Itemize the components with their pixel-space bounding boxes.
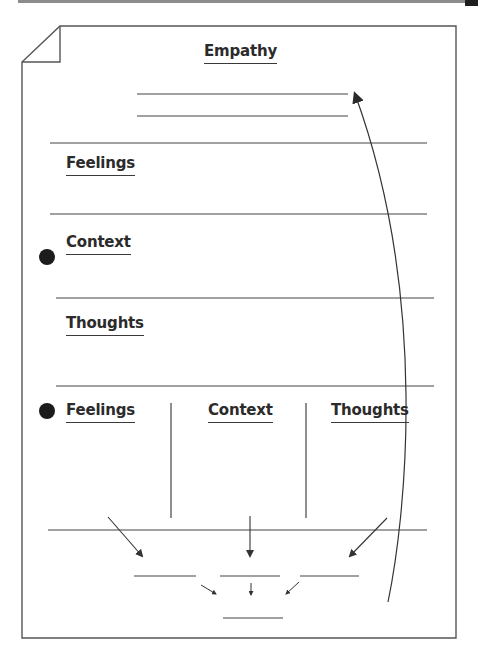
section-context-label: Context: [66, 233, 131, 255]
column-thoughts-label: Thoughts: [331, 401, 409, 423]
title-answer-lines: [137, 94, 348, 116]
bullet-icon: [39, 403, 55, 419]
section-feelings-label: Feelings: [66, 154, 135, 176]
feedback-arrow: [355, 94, 406, 602]
section-thoughts-label: Thoughts: [66, 314, 144, 336]
bullet-icon: [39, 249, 55, 265]
column-context-label: Context: [208, 401, 273, 423]
worksheet-title: Empathy: [204, 42, 277, 64]
small-arrows: [201, 582, 299, 595]
section-dividers: [48, 143, 434, 530]
column-feelings-label: Feelings: [66, 401, 135, 423]
convergence-arrows: [108, 516, 387, 556]
